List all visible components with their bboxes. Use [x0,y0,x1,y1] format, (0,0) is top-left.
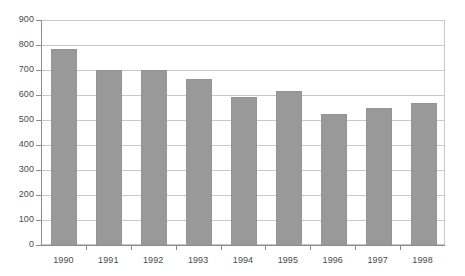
bar-chart: 0100200300400500600700800900 19901991199… [0,0,465,276]
x-axis-tick-0 [86,246,87,250]
y-axis-label-100: 100 [2,215,34,224]
x-axis-label-1990: 1990 [41,255,85,265]
x-axis-tick-2 [176,246,177,250]
x-axis-tick-1 [131,246,132,250]
x-axis-tick-6 [355,246,356,250]
bar-1998 [411,103,437,246]
bar-1993 [186,79,212,246]
x-axis-label-1997: 1997 [356,255,400,265]
x-axis-line [41,245,445,246]
x-axis-label-1991: 1991 [86,255,130,265]
y-axis-label-900: 900 [2,15,34,24]
y-axis-tick-900 [36,20,41,21]
y-axis-label-400: 400 [2,140,34,149]
bar-1997 [366,108,392,246]
x-axis-label-1996: 1996 [311,255,355,265]
y-axis-label-600: 600 [2,90,34,99]
y-axis-tick-800 [36,45,41,46]
bar-1992 [141,70,167,246]
x-axis-tick-3 [221,246,222,250]
y-axis-tick-200 [36,195,41,196]
plot-area [41,20,445,245]
bar-1991 [96,70,122,246]
x-axis-label-1998: 1998 [401,255,445,265]
y-axis-label-200: 200 [2,190,34,199]
x-axis-label-1992: 1992 [131,255,175,265]
x-axis-tick-4 [265,246,266,250]
y-axis-label-500: 500 [2,115,34,124]
y-axis-label-700: 700 [2,65,34,74]
bar-1994 [231,97,257,246]
y-axis-label-300: 300 [2,165,34,174]
bar-1990 [51,49,77,247]
bar-1996 [321,114,347,246]
y-axis-tick-100 [36,220,41,221]
y-axis-tick-500 [36,120,41,121]
x-axis-tick-5 [310,246,311,250]
x-axis-tick-7 [400,246,401,250]
x-axis-label-1994: 1994 [221,255,265,265]
x-axis-label-1995: 1995 [266,255,310,265]
y-axis-tick-labels: 0100200300400500600700800900 [0,0,34,276]
bar-1995 [276,91,302,246]
y-axis-tick-400 [36,145,41,146]
gridline-800 [42,45,444,46]
y-axis-tick-0 [36,245,41,246]
y-axis-label-800: 800 [2,40,34,49]
y-axis-tick-300 [36,170,41,171]
x-axis-label-1993: 1993 [176,255,220,265]
y-axis-line [41,20,42,246]
y-axis-tick-700 [36,70,41,71]
y-axis-label-0: 0 [2,240,34,249]
y-axis-tick-600 [36,95,41,96]
